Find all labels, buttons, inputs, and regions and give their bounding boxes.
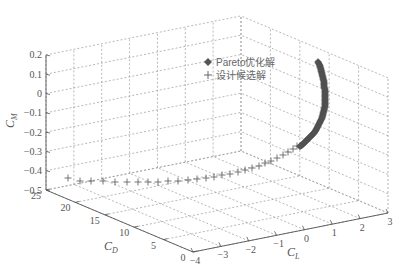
z-tick-label: 0.2 [30, 49, 43, 60]
y-axis-label: CD [104, 239, 118, 255]
x-tick-label: −3 [218, 249, 229, 260]
x-tick-label: 0 [304, 233, 309, 244]
pareto-3d-chart: 0.20.10−0.1−0.2−0.3−0.4−0.5 0510152025 −… [0, 0, 397, 273]
plus-marker [185, 177, 192, 184]
z-axis-label: CM [3, 112, 19, 128]
legend-plus-icon [204, 71, 212, 79]
y-tick-label: 10 [119, 227, 129, 238]
plus-marker [290, 146, 297, 153]
plus-marker [280, 152, 287, 159]
x-axis-label: CL [287, 245, 300, 261]
plus-marker [88, 178, 95, 185]
x-tick-label: −4 [190, 255, 201, 266]
y-tick-label: 20 [60, 202, 70, 213]
legend-label-candidates: 设计候选解 [216, 69, 266, 81]
z-tick-label: −0.4 [24, 165, 42, 176]
plus-marker [112, 179, 119, 186]
z-tick-label: 0 [37, 88, 42, 99]
x-tick-label: 2 [360, 222, 365, 233]
x-tick-label: −2 [245, 244, 256, 255]
z-tick-label: 0.1 [30, 69, 43, 80]
x-tick-label: −1 [273, 238, 284, 249]
plus-marker [203, 175, 210, 182]
y-tick-label: 25 [31, 190, 41, 201]
plus-marker [256, 163, 263, 170]
plus-marker [175, 178, 182, 185]
z-tick-label: −0.3 [24, 146, 42, 157]
candidate-solutions-series [65, 143, 301, 186]
legend-label-pareto: Pareto优化解 [216, 56, 275, 68]
x-tick-label: 1 [332, 227, 337, 238]
plus-marker [194, 176, 201, 183]
legend-diamond-icon [204, 58, 212, 66]
plus-marker [155, 179, 162, 186]
x-tick-label: 3 [388, 216, 393, 227]
plus-marker [285, 149, 292, 156]
plus-marker [274, 155, 281, 162]
plus-marker [227, 171, 234, 178]
y-tick-label: 0 [181, 252, 186, 263]
plus-marker [145, 179, 152, 186]
plus-marker [242, 167, 249, 174]
plus-marker [135, 179, 142, 186]
plus-marker [100, 178, 107, 185]
y-tick-label: 5 [151, 240, 156, 251]
plus-marker [262, 160, 269, 167]
plus-marker [65, 175, 72, 182]
z-tick-label: −0.1 [24, 107, 42, 118]
plus-marker [124, 179, 131, 186]
y-tick-label: 15 [90, 215, 100, 226]
plus-marker [211, 174, 218, 181]
z-tick-label: −0.2 [24, 127, 42, 138]
plus-marker [249, 165, 256, 172]
